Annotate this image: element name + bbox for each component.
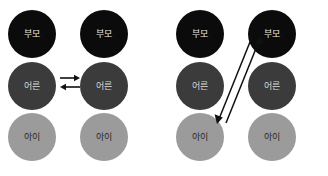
node-adult-b-right[interactable]: 어른 <box>248 62 296 110</box>
node-label-parent: 부모 <box>192 30 209 39</box>
node-parent-b-left[interactable]: 부모 <box>80 10 128 58</box>
node-parent-a-right[interactable]: 부모 <box>176 10 224 58</box>
node-label-child: 아이 <box>96 133 113 142</box>
node-label-parent: 부모 <box>24 30 41 39</box>
node-parent-b-right[interactable]: 부모 <box>248 10 296 58</box>
diagram-crossed-transaction: 부모 어른 아이 부모 어른 아이 <box>168 0 328 176</box>
column-person-a-left: 부모 어른 아이 <box>8 0 72 176</box>
node-child-b-right[interactable]: 아이 <box>248 113 296 161</box>
node-label-child: 아이 <box>24 133 41 142</box>
node-child-a-left[interactable]: 아이 <box>8 113 56 161</box>
node-label-parent: 부모 <box>96 30 113 39</box>
node-adult-a-right[interactable]: 어른 <box>176 62 224 110</box>
diagram-canvas: 부모 어른 아이 부모 어른 아이 <box>0 0 328 176</box>
node-adult-a-left[interactable]: 어른 <box>8 62 56 110</box>
node-child-b-left[interactable]: 아이 <box>80 113 128 161</box>
node-adult-b-left[interactable]: 어른 <box>80 62 128 110</box>
node-label-child: 아이 <box>264 133 281 142</box>
node-label-parent: 부모 <box>264 30 281 39</box>
node-label-adult: 어른 <box>264 82 281 91</box>
column-person-b-right: 부모 어른 아이 <box>248 0 312 176</box>
node-label-child: 아이 <box>192 133 209 142</box>
diagram-parallel-transaction: 부모 어른 아이 부모 어른 아이 <box>0 0 160 176</box>
column-person-a-right: 부모 어른 아이 <box>176 0 240 176</box>
node-label-adult: 어른 <box>96 82 113 91</box>
node-child-a-right[interactable]: 아이 <box>176 113 224 161</box>
node-label-adult: 어른 <box>24 82 41 91</box>
column-person-b-left: 부모 어른 아이 <box>80 0 144 176</box>
node-parent-a-left[interactable]: 부모 <box>8 10 56 58</box>
node-label-adult: 어른 <box>192 82 209 91</box>
